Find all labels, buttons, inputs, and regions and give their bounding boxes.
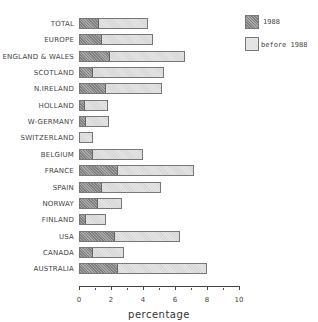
bar-segment-before-1988 [79, 83, 162, 94]
category-label: USA [59, 233, 74, 241]
x-tick-label: 10 [235, 296, 244, 304]
category-label: FRANCE [45, 167, 74, 175]
x-tick-label: 4 [141, 296, 145, 304]
category-label: W-GERMANY [28, 118, 74, 126]
bar-segment-before-1988 [79, 263, 207, 274]
bar-segment-before-1988 [79, 34, 153, 45]
bar-segment-1988 [80, 232, 115, 241]
bar-segment-before-1988 [79, 165, 194, 176]
x-tick-label: 8 [205, 296, 209, 304]
bar-segment-before-1988 [79, 132, 93, 143]
legend-swatch-1988 [245, 15, 259, 29]
x-axis-tick [143, 286, 144, 290]
category-label: AUSTRALIA [33, 265, 74, 273]
x-axis-tick [175, 286, 176, 290]
category-label: TOTAL [51, 20, 74, 28]
bar-segment-1988 [80, 183, 102, 192]
bar-segment-before-1988 [79, 116, 109, 127]
category-label: CANADA [43, 249, 74, 257]
category-label: SCOTLAND [34, 69, 74, 77]
category-label: EUROPE [44, 36, 74, 44]
category-label: N.IRELAND [34, 85, 74, 93]
bar-segment-before-1988 [79, 100, 108, 111]
bar-segment-before-1988 [79, 182, 161, 193]
bar-segment-1988 [80, 215, 86, 224]
bar-segment-before-1988 [79, 51, 185, 62]
x-axis-tick [207, 286, 208, 290]
bar-segment-1988 [80, 150, 93, 159]
bar-segment-1988 [80, 264, 118, 273]
legend-label-1988: 1988 [263, 18, 280, 26]
bar-segment-1988 [80, 199, 98, 208]
category-label: BELGIUM [41, 151, 74, 159]
category-label: NORWAY [42, 200, 74, 208]
bar-segment-before-1988 [79, 149, 143, 160]
x-axis-tick [111, 286, 112, 290]
bar-segment-before-1988 [79, 67, 164, 78]
x-axis-line [79, 286, 239, 287]
bar-segment-1988 [80, 68, 93, 77]
x-axis-label: percentage [128, 309, 190, 320]
category-label: ENGLAND & WALES [2, 53, 74, 61]
legend-swatch-before-1988 [245, 37, 259, 51]
x-axis-minor-tick [127, 288, 128, 290]
bar-segment-1988 [80, 84, 106, 93]
bar-segment-before-1988 [79, 198, 122, 209]
category-label: SPAIN [53, 184, 74, 192]
x-tick-label: 6 [173, 296, 177, 304]
bar-segment-1988 [80, 101, 85, 110]
x-axis-minor-tick [159, 288, 160, 290]
x-axis-tick [79, 286, 80, 290]
x-axis-minor-tick [191, 288, 192, 290]
category-label: HOLLAND [38, 102, 74, 110]
bar-segment-1988 [80, 35, 102, 44]
category-label: FINLAND [42, 216, 74, 224]
x-axis-minor-tick [95, 288, 96, 290]
bar-segment-1988 [80, 52, 110, 61]
bar-segment-before-1988 [79, 247, 124, 258]
category-label: SWITZERLAND [21, 134, 74, 142]
bar-segment-before-1988 [79, 231, 180, 242]
x-axis-minor-tick [223, 288, 224, 290]
bar-segment-before-1988 [79, 214, 106, 225]
bar-segment-1988 [80, 19, 99, 28]
x-axis-tick [239, 286, 240, 290]
bar-segment-1988 [80, 248, 93, 257]
legend-label-before-1988: before 1988 [261, 41, 307, 49]
x-tick-label: 2 [109, 296, 113, 304]
bar-segment-1988 [80, 117, 86, 126]
x-tick-label: 0 [77, 296, 81, 304]
bar-segment-1988 [80, 166, 118, 175]
bar-segment-before-1988 [79, 18, 148, 29]
